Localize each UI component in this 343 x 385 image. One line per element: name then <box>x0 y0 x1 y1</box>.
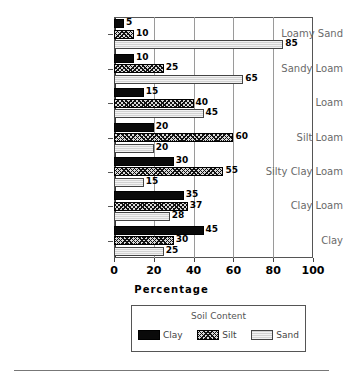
x-axis-tick-label: 60 <box>226 264 241 277</box>
bar-silt-sandy-loam <box>114 64 164 73</box>
legend-label: Sand <box>276 330 299 340</box>
bar-sand-clay <box>114 247 164 256</box>
bar-clay-loam <box>114 88 144 97</box>
bar-value-label: 10 <box>136 29 149 38</box>
legend-title: Soil Content <box>132 311 305 321</box>
bar-value-label: 40 <box>196 98 209 107</box>
x-axis-tick <box>273 258 274 262</box>
bar-sand-silt-loam <box>114 144 154 153</box>
category-label: Loam <box>235 97 343 108</box>
bar-clay-clay-loam <box>114 191 184 200</box>
category-label: Clay <box>235 235 343 246</box>
category-label: Sandy Loam <box>235 63 343 74</box>
bar-value-label: 30 <box>176 235 189 244</box>
x-axis-tick <box>194 258 195 262</box>
category-tick <box>108 172 113 173</box>
legend-items: ClaySiltSand <box>138 330 299 340</box>
bar-value-label: 5 <box>126 18 132 27</box>
category-label: Silt Loam <box>235 132 343 143</box>
bar-sand-loamy-sand <box>114 40 283 49</box>
bar-value-label: 65 <box>245 74 258 83</box>
category-tick <box>108 69 113 70</box>
bar-clay-loamy-sand <box>114 19 124 28</box>
bar-value-label: 25 <box>166 246 179 255</box>
legend-swatch-clay <box>138 330 160 340</box>
bar-silt-silt-loam <box>114 133 233 142</box>
bar-value-label: 30 <box>176 156 189 165</box>
x-axis-title: Percentage <box>0 284 343 295</box>
bar-clay-silty-clay-loam <box>114 157 174 166</box>
bar-silt-clay <box>114 236 174 245</box>
bar-sand-clay-loam <box>114 212 170 221</box>
bar-clay-sandy-loam <box>114 54 134 63</box>
bar-value-label: 85 <box>285 39 298 48</box>
category-label: Clay Loam <box>235 200 343 211</box>
legend-label: Silt <box>222 330 236 340</box>
bar-clay-clay <box>114 226 204 235</box>
category-tick <box>108 138 113 139</box>
category-tick <box>108 206 113 207</box>
bar-value-label: 35 <box>186 190 199 199</box>
bar-value-label: 15 <box>146 177 159 186</box>
bar-value-label: 60 <box>235 132 248 141</box>
x-axis-tick <box>154 258 155 262</box>
legend-item-clay: Clay <box>138 330 183 340</box>
x-axis-tick-label: 0 <box>110 264 118 277</box>
x-axis-tick-label: 80 <box>266 264 281 277</box>
bar-value-label: 55 <box>225 166 238 175</box>
bar-sand-silty-clay-loam <box>114 178 144 187</box>
legend-swatch-silt <box>197 330 219 340</box>
bar-chart-figure: Loamy SandSandy LoamLoamSilt LoamSilty C… <box>0 0 343 385</box>
x-axis-tick <box>233 258 234 262</box>
x-axis-tick-label: 100 <box>302 264 325 277</box>
legend-label: Clay <box>163 330 183 340</box>
category-tick <box>108 241 113 242</box>
legend: Soil Content ClaySiltSand <box>131 305 306 352</box>
bar-value-label: 25 <box>166 63 179 72</box>
bar-value-label: 45 <box>206 108 219 117</box>
category-tick <box>108 103 113 104</box>
category-label: Silty Clay Loam <box>235 166 343 177</box>
x-axis-tick-label: 40 <box>186 264 201 277</box>
bar-silt-loam <box>114 99 194 108</box>
bar-value-label: 10 <box>136 53 149 62</box>
bar-sand-loam <box>114 109 204 118</box>
legend-swatch-sand <box>251 330 273 340</box>
x-axis-tick <box>114 258 115 262</box>
bar-sand-sandy-loam <box>114 75 243 84</box>
bottom-divider <box>14 370 329 371</box>
bar-value-label: 15 <box>146 87 159 96</box>
category-tick <box>108 34 113 35</box>
bar-value-label: 20 <box>156 143 169 152</box>
legend-item-sand: Sand <box>251 330 299 340</box>
bar-silt-loamy-sand <box>114 30 134 39</box>
x-axis-tick <box>313 258 314 262</box>
bar-value-label: 45 <box>206 225 219 234</box>
bar-value-label: 20 <box>156 122 169 131</box>
bar-silt-silty-clay-loam <box>114 167 223 176</box>
legend-item-silt: Silt <box>197 330 236 340</box>
bar-value-label: 37 <box>190 201 203 210</box>
x-axis-tick-label: 20 <box>146 264 161 277</box>
bar-value-label: 28 <box>172 211 185 220</box>
bar-clay-silt-loam <box>114 123 154 132</box>
